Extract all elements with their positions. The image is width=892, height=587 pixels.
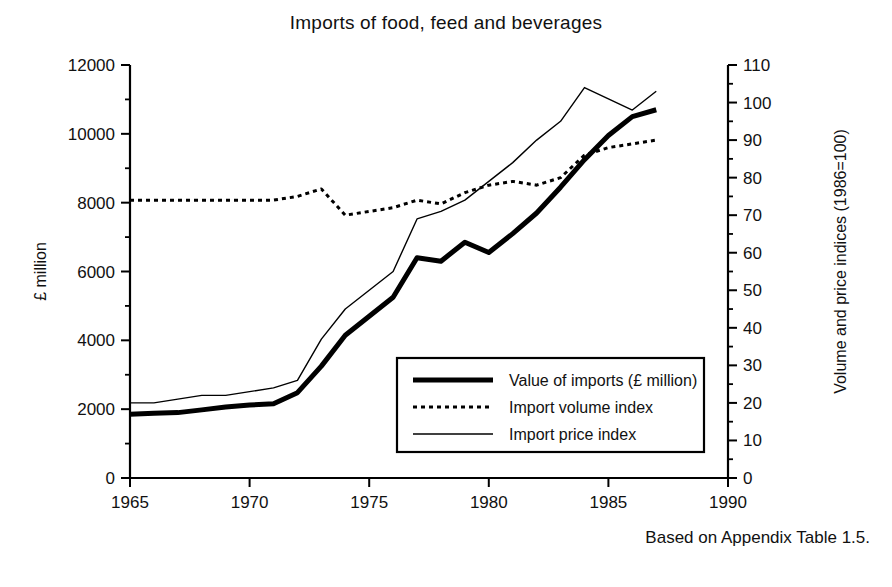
x-tick-label: 1980 [470,493,508,512]
chart-plot: 0200040006000800010000120000102030405060… [0,0,892,587]
x-tick-label: 1990 [709,493,747,512]
y2-tick-label: 50 [743,281,762,300]
y2-tick-label: 100 [743,94,771,113]
y-axis-title: £ million [32,242,49,301]
y-tick-label: 4000 [77,331,115,350]
y-tick-label: 10000 [68,125,115,144]
y2-tick-label: 30 [743,356,762,375]
y2-tick-label: 110 [743,56,770,75]
y-tick-label: 0 [106,469,115,488]
y2-tick-label: 20 [743,394,762,413]
y-tick-label: 6000 [77,263,115,282]
series-line-import-volume-index [130,140,656,215]
x-tick-label: 1975 [350,493,388,512]
legend-label: Value of imports (£ million) [509,372,697,389]
y2-axis-title: Volume and price indices (1986=100) [832,129,849,394]
legend-label: Import price index [509,426,636,443]
y2-tick-label: 40 [743,319,762,338]
legend-label: Import volume index [509,399,653,416]
y-tick-label: 8000 [77,194,115,213]
legend-layer: Value of imports (£ million)Import volum… [397,358,704,452]
y2-tick-label: 70 [743,206,762,225]
series-line-import-price-index [130,88,656,403]
x-tick-label: 1970 [231,493,269,512]
y-tick-label: 2000 [77,400,115,419]
y2-tick-label: 10 [743,431,762,450]
y-tick-label: 12000 [68,56,115,75]
x-tick-label: 1985 [589,493,627,512]
chart-page: Imports of food, feed and beverages 0200… [0,0,892,587]
y2-tick-label: 60 [743,244,762,263]
y2-tick-label: 80 [743,169,762,188]
source-note: Based on Appendix Table 1.5. [645,528,870,548]
x-tick-label: 1965 [111,493,149,512]
y2-tick-label: 0 [743,469,752,488]
y2-tick-label: 90 [743,131,762,150]
